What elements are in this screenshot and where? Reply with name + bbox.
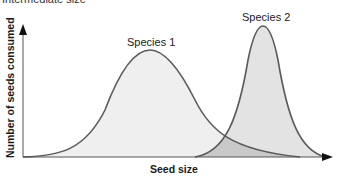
y-axis-arrow-icon bbox=[19, 24, 27, 35]
species2-label: Species 2 bbox=[242, 11, 290, 23]
x-axis-arrow-icon bbox=[322, 153, 333, 161]
chart-plot bbox=[0, 0, 341, 177]
x-axis-label: Seed size bbox=[150, 163, 198, 175]
y-axis-label: Number of seeds consumed bbox=[4, 22, 16, 158]
species1-label: Species 1 bbox=[127, 36, 175, 48]
